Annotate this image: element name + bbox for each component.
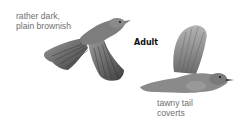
bird-field-guide-figure: rather dark, plain brownish Adult tawny … [0, 0, 248, 130]
annotation-plumage-line2: plain brownish [16, 21, 71, 31]
annotation-plumage: rather dark, plain brownish [16, 11, 71, 31]
annotation-tail-coverts: tawny tail coverts [157, 98, 193, 118]
annotation-tail-line1: tawny tail [157, 98, 193, 108]
annotation-tail-line2: coverts [157, 108, 193, 118]
age-label: Adult [134, 38, 158, 47]
bird-flying-raised-wing-icon [140, 25, 234, 93]
annotation-plumage-line1: rather dark, [16, 11, 71, 21]
